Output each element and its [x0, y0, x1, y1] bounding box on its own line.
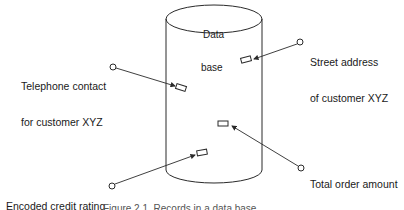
anchor-total-order-icon — [298, 165, 304, 171]
label-line: Total order amount — [310, 178, 398, 190]
anchor-telephone-icon — [110, 64, 116, 70]
label-line: for customer XYZ — [21, 116, 106, 128]
anchor-street-icon — [297, 39, 303, 45]
cylinder-bottom-arc — [166, 170, 262, 183]
label-street-address: Street address of customer XYZ — [310, 32, 388, 116]
label-total-order-amount: Total order amount for February for cust… — [310, 154, 398, 210]
label-encoded-credit-rating: Encoded credit rating for customer XYZ — [6, 176, 105, 210]
label-line: Encoded credit rating — [6, 200, 105, 210]
label-telephone-contact: Telephone contact for customer XYZ — [21, 56, 106, 140]
record-street-icon — [241, 56, 252, 63]
label-line: Street address — [310, 56, 388, 68]
database-label: Data base — [201, 7, 224, 84]
database-label-line2: base — [201, 62, 224, 73]
database-label-line1: Data — [201, 29, 224, 40]
anchor-credit-icon — [109, 183, 115, 189]
pointer-street — [254, 44, 297, 59]
record-credit-icon — [197, 149, 208, 156]
record-telephone-icon — [175, 84, 186, 92]
label-line: of customer XYZ — [310, 92, 388, 104]
pointer-total-order — [232, 126, 298, 166]
figure-caption: Figure 2.1 Records in a data base — [103, 203, 256, 210]
record-total-order-icon — [218, 121, 228, 126]
label-line: Telephone contact — [21, 80, 106, 92]
